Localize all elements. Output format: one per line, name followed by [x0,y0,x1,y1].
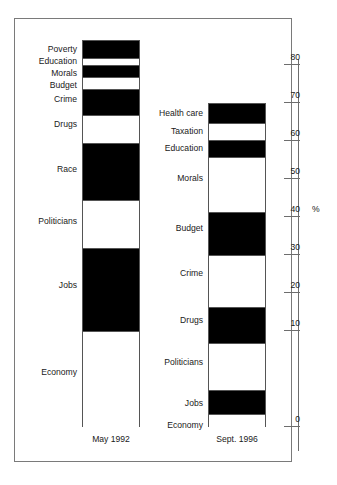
y-axis-tick-20 [284,292,300,293]
y-axis-tick-40 [284,216,300,217]
y-axis-tick-10 [284,330,300,331]
y-axis-tick-30 [284,254,300,255]
y-axis-tick-60 [284,140,300,141]
segment-morals-1996[interactable] [209,157,265,212]
label-drugs-1996: Drugs [135,316,203,325]
label-economy-1996: Economy [135,421,203,430]
segment-drugs-1992[interactable] [83,115,139,143]
label-race-1992: Race [15,165,77,174]
segment-crime-1996[interactable] [209,255,265,307]
label-crime-1996: Crime [135,269,203,278]
segment-budget-1996[interactable] [209,212,265,255]
caption-sept-1996: Sept. 1996 [201,435,273,444]
label-jobs-1996: Jobs [135,399,203,408]
y-axis-tick-label-60: 60 [284,129,300,138]
label-crime-1992: Crime [15,95,77,104]
y-axis-tick-label-70: 70 [284,91,300,100]
segment-economy-1996[interactable] [209,414,265,427]
caption-may-1992: May 1992 [75,435,147,444]
label-morals-1992: Morals [15,69,77,78]
y-axis-tick-label-50: 50 [284,167,300,176]
bar-may-1992[interactable] [82,40,140,427]
segment-jobs-1992[interactable] [83,248,139,331]
segment-taxation-1996[interactable] [209,123,265,140]
stacked-bar-chart-figure: 80 70 60 50 40 30 20 10 0 % Poverty [0,0,337,485]
segment-education-1992[interactable] [83,58,139,65]
segment-budget-1992[interactable] [83,77,139,89]
label-drugs-1992: Drugs [15,120,77,129]
y-axis-tick-label-20: 20 [284,281,300,290]
chart-frame: 80 70 60 50 40 30 20 10 0 % Poverty [14,18,292,462]
label-education-1992: Education [15,57,77,66]
y-axis-tick-label-30: 30 [284,243,300,252]
label-budget-1992: Budget [15,81,77,90]
label-economy-1992: Economy [15,368,77,377]
label-taxation-1996: Taxation [135,127,203,136]
segment-education-1996[interactable] [209,140,265,157]
axis-unit-percent: % [312,205,320,214]
label-health-care-1996: Health care [135,109,203,118]
segment-politicians-1992[interactable] [83,200,139,248]
segment-politicians-1996[interactable] [209,343,265,390]
label-morals-1996: Morals [135,174,203,183]
y-axis-tick-50 [284,178,300,179]
y-axis-tick-label-80: 80 [284,53,300,62]
label-education-1996: Education [135,144,203,153]
segment-economy-1992[interactable] [83,331,139,427]
segment-race-1992[interactable] [83,143,139,200]
segment-drugs-1996[interactable] [209,307,265,343]
bar-sept-1996[interactable] [208,103,266,427]
y-axis-tick-0 [284,426,300,427]
y-axis-tick-label-0: 0 [284,415,300,424]
label-jobs-1992: Jobs [15,281,77,290]
y-axis-tick-70 [284,102,300,103]
segment-jobs-1996[interactable] [209,390,265,414]
y-axis-tick-label-10: 10 [284,319,300,328]
segment-health-care-1996[interactable] [209,104,265,123]
label-politicians-1996: Politicians [135,358,203,367]
y-axis-tick-label-40: 40 [284,205,300,214]
label-poverty-1992: Poverty [15,45,77,54]
segment-poverty-1992[interactable] [83,41,139,58]
segment-crime-1992[interactable] [83,89,139,115]
segment-morals-1992[interactable] [83,65,139,77]
label-budget-1996: Budget [135,224,203,233]
y-axis-tick-80 [284,64,300,65]
label-politicians-1992: Politicians [15,217,77,226]
y-axis-line [298,59,299,451]
